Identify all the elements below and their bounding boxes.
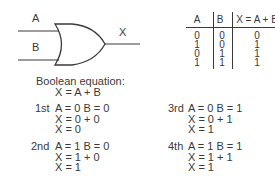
case-3-result: X = 1 xyxy=(188,124,214,135)
or-gate-symbol xyxy=(0,0,150,75)
case-1-ordinal: 1st xyxy=(35,103,50,114)
input-b-label: B xyxy=(32,42,39,53)
header-divider xyxy=(186,27,275,28)
row-4-a: 1 xyxy=(190,58,204,68)
case-2-result: X = 1 xyxy=(55,162,81,173)
case-2-ordinal: 2nd xyxy=(31,141,49,152)
case-4-ordinal: 4th xyxy=(168,141,183,152)
column-divider-1 xyxy=(213,12,214,69)
equation-formula: X = A + B xyxy=(55,87,101,98)
case-3-ordinal: 3rd xyxy=(168,103,184,114)
or-gate-body xyxy=(55,24,105,65)
output-x-label: X xyxy=(119,27,126,38)
header-x: X = A + B xyxy=(232,15,275,25)
header-a: A xyxy=(190,15,204,25)
case-1-result: X = 0 xyxy=(55,124,81,135)
header-b: B xyxy=(213,15,227,25)
input-a-label: A xyxy=(32,13,39,24)
row-4-x: 1 xyxy=(232,58,275,68)
case-4-result: X = 1 xyxy=(188,162,214,173)
row-4-b: 1 xyxy=(215,58,229,68)
